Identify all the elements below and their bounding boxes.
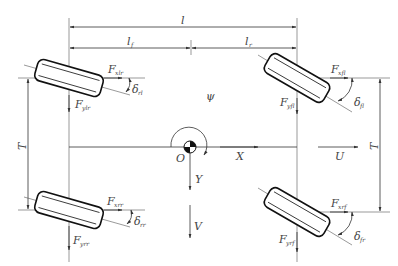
svg-text:xrr: xrr — [114, 201, 124, 208]
rear-distance-sub: r — [249, 41, 253, 48]
svg-text:rl: rl — [138, 89, 143, 96]
svg-text:yfl: yfl — [286, 102, 294, 110]
center-of-gravity: ψ O Y V — [171, 90, 215, 238]
wheel-top-right: F xfl δ fl F yfl — [258, 51, 364, 114]
right-track-label: T — [368, 141, 381, 150]
origin-label: O — [176, 152, 185, 165]
vehicle-dynamics-diagram: l l f l r T T X U ψ O Y V — [0, 0, 398, 266]
x-axis-label: X — [235, 150, 245, 163]
svg-text:xfl: xfl — [338, 69, 345, 77]
svg-text:fl: fl — [359, 102, 364, 110]
svg-text:ylr: ylr — [81, 104, 91, 112]
wheel-bottom-left: F xrr δ rr F yrr — [24, 190, 147, 250]
left-track-label: T — [16, 141, 29, 150]
svg-text:xrf: xrf — [338, 203, 348, 211]
svg-text:fr: fr — [359, 236, 366, 244]
svg-text:yrr: yrr — [79, 240, 90, 248]
v-velocity-label: V — [194, 220, 203, 233]
y-axis-label: Y — [195, 173, 204, 186]
svg-text:xlr: xlr — [115, 69, 124, 76]
wheelbase-dimension: l — [69, 14, 297, 262]
svg-text:yrf: yrf — [285, 239, 296, 247]
wheel-top-left: F xlr δ rl F ylr — [24, 58, 143, 112]
yaw-label: ψ — [206, 90, 215, 103]
wheel-bottom-right: F xrf δ fr F yrf — [258, 185, 366, 252]
wheelbase-label: l — [181, 14, 185, 27]
svg-text:rr: rr — [140, 221, 147, 228]
u-velocity-label: U — [335, 150, 345, 163]
axle-distance-dimensions: l f l r — [70, 35, 296, 55]
